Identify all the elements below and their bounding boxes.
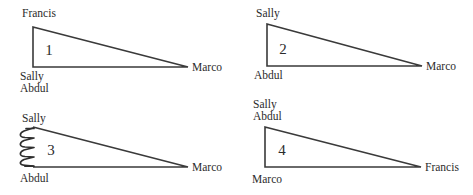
triangle-2-number: 2 — [279, 41, 287, 57]
triangle-panel-3: Sally Marco Abdul 3 — [20, 112, 222, 184]
triangle-1-outline — [33, 27, 188, 67]
triangle-4-right-label: Francis — [425, 161, 459, 173]
triangle-1-top-label: Francis — [22, 7, 56, 19]
triangle-2-top-label: Sally — [256, 7, 280, 20]
triangle-4-outline — [265, 127, 421, 167]
triangle-2-outline — [267, 24, 422, 66]
triangle-2-right-label: Marco — [426, 60, 456, 72]
triangle-3-base-label-1: Abdul — [20, 172, 49, 184]
triangle-4-top-label-2: Abdul — [253, 110, 282, 122]
triangle-3-spring-icon — [20, 128, 34, 166]
triangle-diagram-figure: Francis Marco Sally Abdul 1 Sally Marco … — [0, 0, 473, 195]
triangle-3-number: 3 — [47, 142, 55, 158]
triangle-1-right-label: Marco — [192, 61, 222, 73]
triangle-3-right-label: Marco — [192, 161, 222, 173]
triangle-1-base-label-2: Abdul — [20, 82, 49, 94]
triangle-4-base-label-1: Marco — [252, 173, 282, 185]
triangle-panel-2: Sally Marco Abdul 2 — [254, 7, 456, 81]
triangle-3-outline — [33, 127, 188, 167]
diagram-canvas: Francis Marco Sally Abdul 1 Sally Marco … — [0, 0, 473, 195]
triangle-panel-1: Francis Marco Sally Abdul 1 — [20, 7, 222, 94]
triangle-3-top-label: Sally — [22, 112, 46, 125]
triangle-2-base-label-1: Abdul — [254, 69, 283, 81]
triangle-panel-4: Sally Abdul Francis Marco 4 — [252, 98, 459, 185]
triangle-1-number: 1 — [45, 42, 53, 58]
triangle-4-number: 4 — [278, 142, 286, 158]
